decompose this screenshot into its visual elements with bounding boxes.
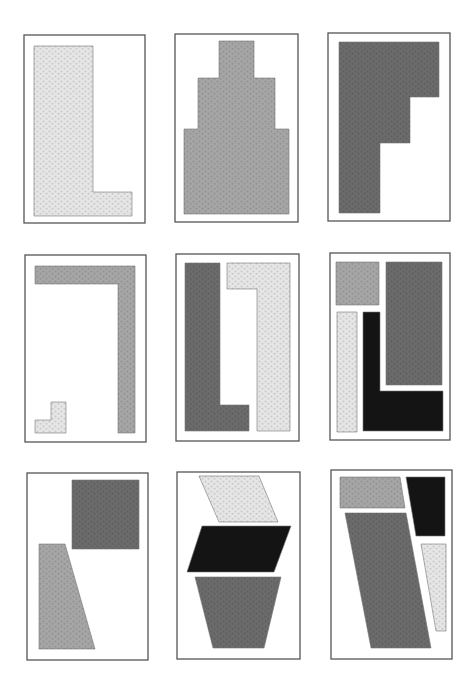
black-parallelogram	[187, 526, 291, 572]
panel-6	[330, 253, 450, 440]
panel-5	[176, 254, 299, 441]
panel-7	[27, 473, 148, 660]
panel-4	[25, 255, 146, 442]
mid-quadrilateral-texture	[340, 477, 405, 508]
panel-grid	[24, 33, 452, 660]
dark-rectangle-texture	[386, 262, 442, 385]
panel-9	[331, 470, 452, 659]
dark-square-texture	[72, 480, 139, 549]
light-bar-texture	[337, 312, 357, 432]
panel-1	[24, 35, 145, 223]
panel-8	[177, 472, 300, 659]
diagram-canvas	[0, 0, 473, 685]
mid-square-texture	[336, 262, 379, 305]
panel-2	[175, 34, 298, 222]
panel-3	[328, 33, 450, 221]
